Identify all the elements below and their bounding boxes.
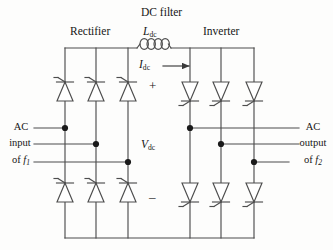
voltage-subscript: dc xyxy=(148,143,155,152)
ac-output-phase-leads xyxy=(190,128,299,162)
dc-filter-title: DC filter xyxy=(141,6,182,18)
inductor-label: Ldc xyxy=(143,25,157,37)
inverter-thyristor-upper-1 xyxy=(179,82,199,106)
rectifier-thyristor-lower-2 xyxy=(85,179,105,203)
ac-input-line-1: AC xyxy=(8,121,34,132)
inverter-thyristor-lower-1 xyxy=(179,183,199,207)
ac-input-line-3: of f1 xyxy=(7,154,35,165)
inverter-label: Inverter xyxy=(203,25,239,37)
inverter-thyristor-lower-3 xyxy=(243,183,263,207)
dc-filter-inductor xyxy=(137,39,171,50)
rectifier-thyristor-upper-3 xyxy=(117,78,137,102)
circuit-diagram-figure: DC filter Rectifier Inverter Ldc Idc + V… xyxy=(0,0,333,250)
node-output-phase-3 xyxy=(251,159,257,165)
ac-input-of-text: of xyxy=(12,154,23,165)
dc-minus-sign: – xyxy=(149,189,156,205)
ac-output-line-3: of f2 xyxy=(299,154,327,165)
inverter-thyristor-upper-2 xyxy=(210,82,230,106)
ac-input-phase-leads xyxy=(34,128,128,162)
inductor-subscript: dc xyxy=(149,30,156,39)
rectifier-thyristor-lower-1 xyxy=(54,179,74,203)
node-input-phase-1 xyxy=(62,125,68,131)
circuit-schematic xyxy=(0,0,333,250)
ac-output-line-2: output xyxy=(296,137,330,148)
node-output-phase-2 xyxy=(218,141,224,147)
rectifier-thyristor-upper-1 xyxy=(54,78,74,102)
node-input-phase-2 xyxy=(93,141,99,147)
voltage-symbol: V xyxy=(141,138,148,150)
ac-output-line-1: AC xyxy=(300,121,326,132)
junction-nodes xyxy=(62,125,257,165)
ac-input-frequency-subscript: 1 xyxy=(26,158,30,167)
current-subscript: dc xyxy=(143,63,150,72)
rectifier-thyristor-upper-2 xyxy=(85,78,105,102)
inverter-thyristor-lower-2 xyxy=(210,183,230,207)
ac-input-line-2: input xyxy=(5,137,35,148)
node-output-phase-1 xyxy=(187,125,193,131)
dc-voltage-label: Vdc xyxy=(141,138,155,150)
rectifier-label: Rectifier xyxy=(70,25,110,37)
dc-plus-sign: + xyxy=(149,78,156,94)
dc-current-label: Idc xyxy=(139,58,150,70)
rectifier-thyristor-lower-3 xyxy=(117,179,137,203)
ac-output-of-text: of xyxy=(304,154,315,165)
ac-output-frequency-subscript: 2 xyxy=(318,158,322,167)
node-input-phase-3 xyxy=(125,159,131,165)
inverter-thyristor-upper-3 xyxy=(243,82,263,106)
